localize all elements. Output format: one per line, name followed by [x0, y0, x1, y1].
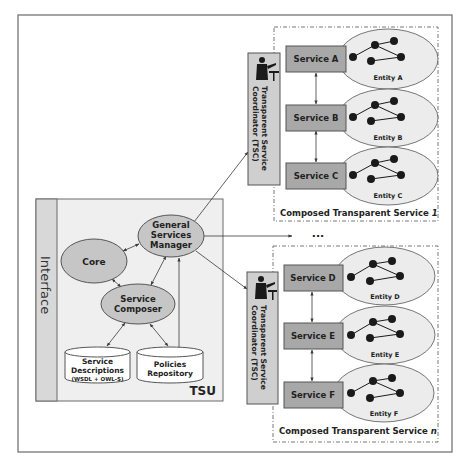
general-services-manager[interactable]: General Services Manager	[138, 215, 204, 257]
svg-text:General: General	[152, 220, 189, 230]
svg-text:Service A: Service A	[294, 54, 339, 64]
service-f[interactable]: Service F	[284, 382, 343, 408]
composed-service-1-title: Composed Transparent Service 1	[280, 208, 438, 218]
svg-text:Entity A: Entity A	[373, 74, 402, 82]
svg-text:Transparent Service: Transparent Service	[260, 86, 269, 171]
svg-text:Service: Service	[82, 357, 113, 366]
interface-label: Interface	[38, 256, 53, 314]
svg-text:Entity D: Entity D	[370, 293, 400, 301]
entity-b[interactable]: Entity B	[338, 89, 438, 147]
svg-text:Service E: Service E	[291, 331, 335, 341]
svg-text:Policies: Policies	[154, 360, 187, 369]
svg-text:(WSDL + OWL-S): (WSDL + OWL-S)	[71, 376, 124, 382]
svg-text:Transparent Service: Transparent Service	[259, 305, 268, 390]
ellipsis: ...	[312, 227, 325, 240]
svg-text:Services: Services	[151, 230, 191, 240]
transparent-service-coordinator-n[interactable]: Transparent Service Coordinator (TSC)	[247, 272, 278, 404]
svg-text:Service C: Service C	[294, 171, 339, 181]
service-b[interactable]: Service B	[286, 105, 346, 131]
service-a[interactable]: Service A	[286, 46, 346, 72]
svg-text:Descriptions: Descriptions	[71, 366, 125, 375]
service-c[interactable]: Service C	[286, 163, 346, 189]
service-composer[interactable]: Service Composer	[101, 284, 175, 324]
tsu-label: TSU	[189, 384, 216, 398]
svg-text:Entity E: Entity E	[371, 351, 399, 359]
entity-c[interactable]: Entity C	[338, 147, 438, 205]
core-component[interactable]: Core	[61, 239, 127, 283]
svg-text:Service B: Service B	[294, 113, 339, 123]
svg-text:Service: Service	[120, 294, 156, 304]
transparent-service-coordinator-1[interactable]: Transparent Service Coordinator (TSC)	[248, 53, 280, 185]
svg-text:Manager: Manager	[150, 240, 193, 250]
entity-f[interactable]: Entity F	[334, 364, 434, 422]
service-d[interactable]: Service D	[284, 265, 343, 291]
entity-a[interactable]: Entity A	[338, 29, 438, 89]
service-e[interactable]: Service E	[284, 323, 343, 349]
composed-service-n-title: Composed Transparent Service n	[279, 426, 437, 436]
svg-text:Entity F: Entity F	[370, 410, 398, 418]
service-descriptions-db[interactable]: Service Descriptions (WSDL + OWL-S)	[65, 347, 130, 383]
policies-repository-db[interactable]: Policies Repository	[137, 347, 203, 383]
svg-text:Coordinator (TSC): Coordinator (TSC)	[251, 86, 260, 162]
svg-text:Entity C: Entity C	[374, 192, 403, 200]
entity-d[interactable]: Entity D	[335, 247, 435, 305]
svg-text:Core: Core	[82, 257, 105, 267]
svg-text:Service F: Service F	[291, 390, 335, 400]
svg-text:Coordinator (TSC): Coordinator (TSC)	[250, 305, 259, 381]
svg-text:Service D: Service D	[290, 273, 335, 283]
svg-text:Entity B: Entity B	[374, 134, 403, 142]
svg-text:Composer: Composer	[114, 304, 163, 314]
entity-e[interactable]: Entity E	[335, 306, 435, 364]
svg-text:Repository: Repository	[147, 369, 193, 378]
architecture-diagram: Interface TSU ... Core General Services …	[0, 0, 467, 468]
